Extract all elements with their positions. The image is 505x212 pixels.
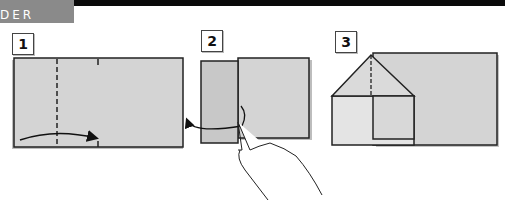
fold-diagrams: [0, 0, 505, 212]
step-1-diagram: [12, 58, 183, 149]
step-2-diagram: [187, 58, 322, 200]
step-3-diagram: [332, 53, 499, 147]
